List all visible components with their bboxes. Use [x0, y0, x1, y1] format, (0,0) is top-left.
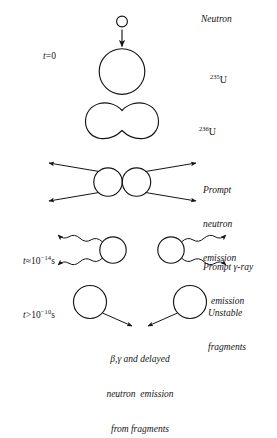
- delayed-emission-caption: β,γ and delayed neutron emission from fr…: [62, 331, 218, 438]
- gamma-wave-lower-left: [58, 259, 102, 265]
- prompt-gamma-emission-line-1: Prompt γ-ray: [203, 262, 253, 273]
- gamma-wave-upper-left: [58, 235, 102, 241]
- u235-nucleus-circle: [99, 49, 145, 95]
- stage-prompt-neutron-emission: [49, 163, 196, 201]
- prompt-neutron-arrow-lower-right: [146, 193, 197, 202]
- delayed-emission-caption-line-2: neutron emission: [62, 389, 218, 401]
- time-label-delayed-exponent: −10: [41, 308, 51, 315]
- time-label-prompt-gamma: t≈10−14s: [13, 243, 55, 279]
- prompt-neutron-arrow-upper-left: [49, 163, 99, 172]
- time-label-delayed-unit: s: [51, 310, 55, 320]
- unstable-fragment-left-circle: [74, 286, 107, 319]
- neutron-label: Neutron: [201, 14, 232, 25]
- time-label-prompt-gamma-exponent: −14: [41, 254, 51, 261]
- unstable-fragments-line-1: Unstable: [208, 308, 246, 319]
- isotope-label-u235-mass: 235: [210, 73, 220, 80]
- time-label-prompt-gamma-unit: s: [51, 256, 55, 266]
- u236-deformed-nucleus-shape: [86, 103, 159, 139]
- fission-fragment-right-circle: [122, 168, 150, 196]
- gamma-fragment-left-circle: [100, 237, 126, 263]
- fission-fragment-left-circle: [94, 168, 122, 196]
- prompt-neutron-arrow-lower-left: [49, 193, 99, 202]
- isotope-label-u236-mass: 236: [199, 125, 209, 132]
- isotope-label-u236-symbol: U: [209, 126, 216, 137]
- prompt-neutron-emission-line-1: Prompt: [203, 185, 236, 196]
- stage-delayed-emission: [74, 286, 207, 327]
- delayed-emission-arrow-left: [103, 313, 133, 326]
- time-label-delayed-base: 10: [31, 310, 41, 320]
- time-label-prompt-gamma-base: 10: [31, 256, 41, 266]
- stage-neutron-capture: [99, 16, 145, 94]
- time-label-t-zero-value: 0: [51, 51, 56, 61]
- prompt-neutron-emission-line-2: neutron: [203, 219, 236, 230]
- incident-neutron-circle: [117, 16, 128, 27]
- gamma-fragment-right-circle: [158, 237, 184, 263]
- time-label-t-zero: t=0: [33, 40, 56, 74]
- time-label-delayed: t>10−10s: [13, 297, 55, 333]
- delayed-emission-arrow-right: [148, 313, 178, 326]
- delayed-emission-caption-line-1: β,γ and delayed: [62, 354, 218, 366]
- unstable-fragment-right-circle: [174, 286, 207, 319]
- isotope-label-u235: 235U: [200, 61, 227, 98]
- isotope-label-u235-symbol: U: [220, 74, 227, 85]
- stage-compound-nucleus: [86, 103, 159, 139]
- delayed-emission-caption-line-3: from fragments: [62, 424, 218, 436]
- prompt-neutron-arrow-upper-right: [146, 163, 197, 172]
- stage-prompt-gamma-emission: [58, 235, 226, 265]
- isotope-label-u236: 236U: [189, 113, 216, 150]
